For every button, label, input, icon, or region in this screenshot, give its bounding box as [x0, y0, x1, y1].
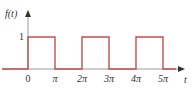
- axes: [2, 10, 185, 72]
- x-tick-labels: 0 π 2π 3π 4π 5π: [26, 73, 169, 84]
- y-axis-arrow-icon: [25, 10, 31, 17]
- tick-label-3pi: 3π: [103, 73, 115, 84]
- tick-label-2pi: 2π: [77, 73, 88, 84]
- y-axis-label: f(t): [5, 8, 18, 20]
- tick-label-4pi: 4π: [131, 73, 142, 84]
- tick-label-0: 0: [26, 73, 31, 84]
- x-axis-arrow-icon: [178, 66, 185, 72]
- square-wave-signal: [2, 37, 176, 69]
- x-axis-label: t: [184, 74, 187, 85]
- tick-label-5pi: 5π: [158, 73, 169, 84]
- square-wave-diagram: f(t) 1 t 0 π 2π 3π 4π 5π: [0, 0, 192, 88]
- tick-label-pi: π: [52, 73, 58, 84]
- level-one-label: 1: [19, 31, 24, 42]
